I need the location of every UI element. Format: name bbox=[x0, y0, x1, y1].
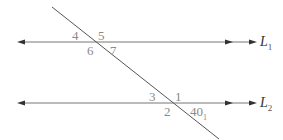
angle-label-7: 7 bbox=[110, 44, 117, 57]
line-label-l2: L2 bbox=[260, 96, 272, 113]
line-l1 bbox=[17, 40, 257, 45]
angle-label-40: 401 bbox=[190, 105, 207, 122]
line-label-l1: L1 bbox=[260, 35, 272, 52]
arrow-right-icon bbox=[249, 101, 257, 106]
diagram-canvas: 4 5 6 7 3 1 2 401 L1 L2 bbox=[0, 0, 283, 140]
lines-svg bbox=[0, 0, 283, 140]
angle-label-4: 4 bbox=[72, 29, 79, 42]
angle-label-2: 2 bbox=[164, 105, 171, 118]
angle-label-3: 3 bbox=[149, 90, 156, 103]
arrow-right-icon bbox=[249, 40, 257, 45]
arrow-left-icon bbox=[17, 101, 25, 106]
angle-label-5: 5 bbox=[98, 29, 105, 42]
angle-label-6: 6 bbox=[87, 44, 94, 57]
arrow-right-icon bbox=[225, 40, 233, 45]
angle-label-1: 1 bbox=[175, 90, 182, 103]
arrow-right-icon bbox=[225, 101, 233, 106]
line-l2 bbox=[17, 101, 257, 106]
arrow-left-icon bbox=[17, 40, 25, 45]
